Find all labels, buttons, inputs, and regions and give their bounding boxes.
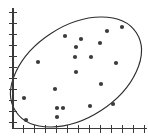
data-point <box>105 29 109 33</box>
data-point <box>73 55 77 59</box>
data-point <box>36 60 40 64</box>
data-points-layer <box>22 25 124 122</box>
x-axis-group <box>12 125 147 133</box>
data-point <box>89 55 93 59</box>
scatter-plot-canvas <box>0 0 148 137</box>
data-point <box>99 82 103 86</box>
data-point <box>53 87 57 91</box>
data-point <box>55 106 59 110</box>
data-point <box>24 118 28 122</box>
y-axis-group <box>9 8 17 129</box>
data-point <box>55 115 59 119</box>
data-point <box>74 45 78 49</box>
data-point <box>74 70 78 74</box>
scatter-plot-figure <box>0 0 148 137</box>
data-point <box>98 41 102 45</box>
data-point <box>120 25 124 29</box>
data-point <box>61 106 65 110</box>
data-point <box>22 96 26 100</box>
ellipse-annotation-group <box>0 0 148 137</box>
data-point <box>88 104 92 108</box>
data-point <box>114 61 118 65</box>
confidence-ellipse <box>0 0 148 137</box>
data-point <box>79 37 83 41</box>
data-point <box>111 102 115 106</box>
data-point <box>63 34 67 38</box>
